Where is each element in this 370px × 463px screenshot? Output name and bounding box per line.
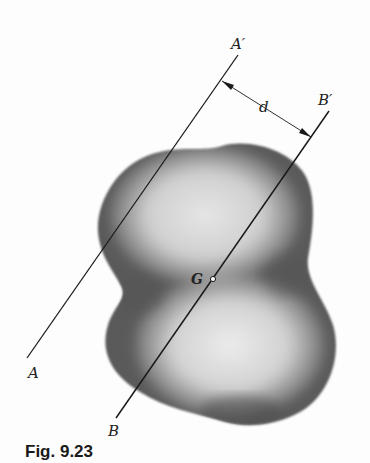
label-a: A: [26, 364, 39, 382]
label-d: d: [259, 98, 269, 116]
label-b: B: [107, 422, 119, 440]
arrowhead-right-icon: [299, 128, 311, 137]
label-g: G: [191, 271, 203, 287]
irregular-area-shape: [98, 144, 336, 426]
figure-canvas: A′ B′ d G A B Fig. 9.23: [0, 0, 370, 463]
label-a-prime: A′: [229, 35, 246, 53]
arrowhead-left-icon: [222, 81, 234, 90]
diagram-svg: A′ B′ d G A B: [0, 0, 370, 463]
centroid-point-icon: [210, 276, 215, 281]
label-b-prime: B′: [317, 91, 333, 109]
figure-caption: Fig. 9.23: [25, 442, 93, 462]
